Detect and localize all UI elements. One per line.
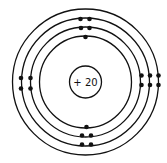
electron-shell-2 [87, 26, 92, 31]
electron-shell-1 [83, 35, 88, 40]
electron-shell-3 [148, 73, 153, 78]
electron-shell-3 [78, 17, 83, 22]
electron-shell-2 [139, 83, 144, 88]
electron-shell-2 [139, 73, 144, 78]
electron-shell-2 [79, 26, 84, 31]
electron-shell-3 [89, 142, 94, 147]
electron-shell-2 [80, 133, 85, 138]
electron-shell-3 [19, 76, 24, 81]
electron-shell-2 [28, 76, 33, 81]
electron-shell-3 [87, 17, 92, 22]
electron-shell-4 [156, 73, 161, 78]
electron-shell-3 [148, 83, 153, 88]
electron-shell-3 [80, 142, 85, 147]
electron-shell-4 [156, 83, 161, 88]
electron-shell-1 [84, 125, 89, 130]
nucleus-charge-label: + 20 [73, 77, 97, 88]
nucleus: + 20 [70, 66, 102, 98]
bohr-atom-diagram: + 20 [0, 0, 167, 163]
electron-shell-3 [19, 86, 24, 91]
electron-shell-2 [28, 86, 33, 91]
electron-shell-2 [89, 133, 94, 138]
